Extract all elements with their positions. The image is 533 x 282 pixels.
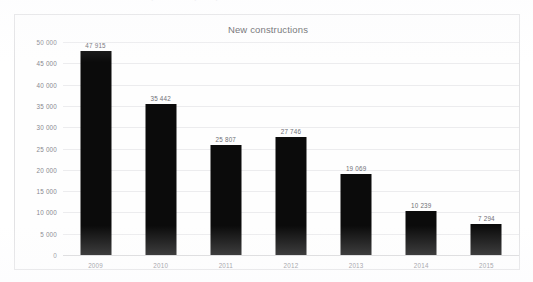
bar-group[interactable]: 19 0692013	[324, 42, 389, 255]
gridline: 0	[63, 255, 519, 256]
y-axis-tick-label: 10 000	[37, 209, 57, 216]
y-axis-tick-label: 15 000	[37, 188, 57, 195]
y-axis-tick-label: 20 000	[37, 166, 57, 173]
cut-off-caption-ghost: (cut-off caption)	[0, 0, 533, 13]
bar[interactable]	[275, 137, 306, 255]
chart-figure-frame: New constructions 05 00010 00015 00020 0…	[14, 14, 520, 270]
y-axis-tick-label: 40 000	[37, 81, 57, 88]
bar-value-label: 7 294	[478, 215, 495, 222]
x-axis-tick-label: 2011	[219, 262, 233, 269]
bar-group[interactable]: 27 7462012	[258, 42, 323, 255]
bar[interactable]	[145, 104, 176, 255]
bar-group[interactable]: 47 9152009	[63, 42, 128, 255]
x-axis-tick-label: 2012	[284, 262, 299, 269]
bar-value-label: 19 069	[346, 165, 366, 172]
x-axis-tick-label: 2010	[153, 262, 168, 269]
bar-value-label: 27 746	[281, 128, 301, 135]
bar[interactable]	[210, 145, 241, 255]
y-axis-tick-label: 30 000	[37, 124, 57, 131]
x-axis-tick-label: 2015	[479, 262, 494, 269]
y-axis-tick-label: 45 000	[37, 60, 57, 67]
plot-area: 05 00010 00015 00020 00025 00030 00035 0…	[63, 42, 519, 255]
y-axis-tick-label: 5 000	[40, 230, 57, 237]
y-axis-tick-label: 50 000	[37, 39, 57, 46]
cut-off-caption-text: (cut-off caption)	[150, 0, 219, 1]
bar[interactable]	[341, 174, 372, 255]
y-axis-tick-label: 25 000	[37, 145, 57, 152]
x-axis-tick-label: 2014	[414, 262, 429, 269]
x-axis-tick-label: 2009	[88, 262, 103, 269]
bar[interactable]	[80, 51, 111, 255]
bar-group[interactable]: 25 8072011	[193, 42, 258, 255]
bar-value-label: 47 915	[85, 42, 105, 49]
chart-title: New constructions	[15, 24, 521, 35]
bar-value-label: 25 807	[216, 136, 236, 143]
bar-group[interactable]: 35 4422010	[128, 42, 193, 255]
bar-value-label: 10 239	[411, 202, 431, 209]
bars-layer: 47 915200935 442201025 807201127 7462012…	[63, 42, 519, 255]
bar[interactable]	[406, 211, 437, 255]
bar[interactable]	[471, 224, 502, 255]
bar-group[interactable]: 7 2942015	[454, 42, 519, 255]
bar-group[interactable]: 10 2392014	[389, 42, 454, 255]
y-axis-tick-label: 0	[53, 252, 57, 259]
x-axis-tick-label: 2013	[349, 262, 364, 269]
y-axis-tick-label: 35 000	[37, 102, 57, 109]
bar-value-label: 35 442	[150, 95, 170, 102]
